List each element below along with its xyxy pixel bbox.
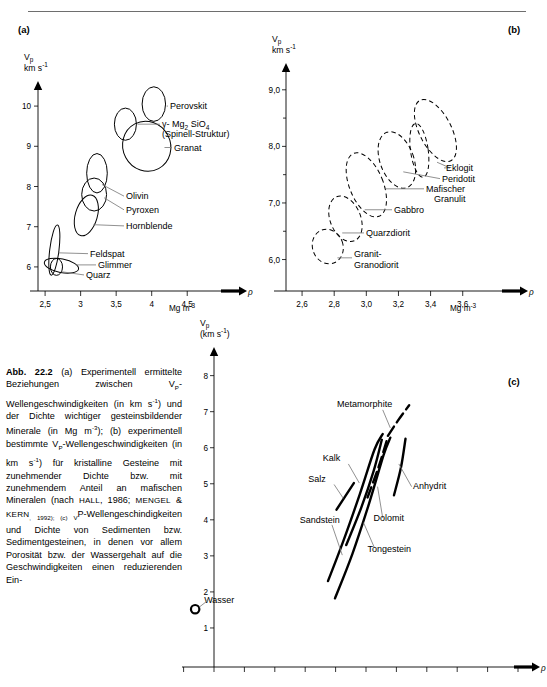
envelope-label-eklogit: Eklogit [446, 163, 474, 173]
x-tick-label-a: 3,5 [110, 300, 122, 309]
envelope-label-granit-: Granit- [354, 249, 382, 259]
y-tick-label-c: 7 [203, 408, 208, 417]
curve-label-dolomit: Dolomit [374, 513, 405, 523]
envelope-label-granodiorit: Granodiorit [354, 260, 399, 270]
y-tick-label-b: 7,0 [269, 199, 281, 208]
y-tick-label-c: 6 [203, 444, 208, 453]
curve-label-salz: Salz [308, 474, 326, 484]
caption-run: , 1986; [100, 495, 136, 505]
chart-panel-b: Vpkm s-16,07,08,09,02,62,83,03,23,43,6ρM… [264, 30, 544, 330]
x-axis-a-unit: Mg m-3 [169, 302, 196, 313]
curve-label-anhydrit: Anhydrit [413, 481, 447, 491]
envelope-label-hornblende: Hornblende [126, 221, 173, 231]
leader-sandstein [332, 525, 342, 555]
y-tick-label-c: 5 [203, 480, 208, 489]
curve-dolomit [368, 439, 388, 498]
curve-salz [337, 483, 354, 510]
curve-label-metamorphite: Metamorphite [337, 399, 392, 409]
x-tick-label-b: 3,0 [361, 300, 373, 309]
y-tick-label-c: 4 [203, 516, 208, 525]
figure-caption: Abb. 22.2 (a) Experimentell ermittelte B… [6, 366, 182, 586]
x-axis-a-arrow-head [239, 286, 247, 295]
y-axis-label-a-unit: km s-1 [24, 61, 48, 72]
caption-label: Abb. 22.2 [6, 367, 61, 377]
curve-metamorphite [388, 405, 409, 436]
y-tick-label-c: 8 [203, 372, 208, 381]
envelope-label-perovskit: Perovskit [170, 101, 208, 111]
envelope-peridotit [407, 122, 432, 178]
caption-run: KERN [6, 510, 29, 519]
leader-kalk [348, 464, 359, 483]
y-tick-label-b: 8,0 [269, 142, 281, 151]
envelope-perovskit [142, 87, 165, 122]
x-axis-b-unit: Mg m-3 [450, 302, 477, 313]
chart-panel-a: Vpkm s-16789102,533,544,5ρMg m-3Perovski… [0, 30, 268, 330]
x-axis-b-symbol: ρ [528, 288, 534, 297]
envelope-label-(spinell-struktur): (Spinell-Struktur) [162, 129, 230, 139]
leader-salz [334, 484, 343, 498]
y-tick-label-a: 9 [26, 142, 31, 151]
x-axis-c-arrow-head [532, 662, 540, 671]
envelope-label-mafischer: Mafischer [426, 184, 465, 194]
envelope-label-pyroxen: Pyroxen [126, 205, 159, 215]
marker-wasser [191, 605, 199, 613]
envelope-label-granat: Granat [174, 143, 202, 153]
curve-kalk [346, 440, 382, 545]
envelope-label-gabbro: Gabbro [394, 205, 424, 215]
y-tick-label-a: 7 [26, 223, 31, 232]
envelope-label-peridotit: Peridotit [442, 174, 476, 184]
caption-run: & [171, 495, 182, 505]
x-tick-label-a: 3 [78, 300, 83, 309]
envelope-pyroxen [82, 178, 107, 211]
envelope-gabbro [338, 147, 395, 223]
x-tick-label-b: 2,8 [329, 300, 341, 309]
y-tick-label-b: 6,0 [269, 256, 281, 265]
header-rule [28, 11, 526, 12]
envelope-eklogit [406, 93, 465, 168]
envelope-granit-granodiorit [307, 225, 348, 268]
y-tick-label-c: 3 [203, 552, 208, 561]
envelope-quarzdiorit [322, 191, 368, 247]
envelope-olivin [87, 154, 108, 193]
leader-Olivin [102, 184, 124, 196]
leader-Pyroxen [104, 198, 124, 210]
leader-metamorphite [383, 410, 391, 428]
envelope-label-quarzdiorit: Quarzdiorit [366, 228, 411, 238]
caption-run: HALL [79, 496, 100, 505]
x-axis-b-arrow-head [520, 286, 528, 295]
envelope-label-glimmer: Glimmer [98, 260, 132, 270]
x-tick-label-b: 3,2 [393, 300, 405, 309]
y-axis-arrow-b [282, 63, 290, 72]
x-axis-c-symbol: ρ [540, 664, 546, 673]
curve-anhydrit [394, 439, 406, 496]
leader-Feldspat [59, 253, 88, 254]
y-axis-arrow-a [34, 81, 42, 90]
envelope-label-feldspat: Feldspat [90, 249, 125, 259]
leader-Peridotit [403, 172, 440, 179]
x-tick-label-b: 2,6 [296, 300, 308, 309]
caption-run: MENGEL [135, 496, 170, 505]
y-tick-label-c: 1 [203, 624, 208, 633]
envelope-label-granulit: Granulit [434, 194, 466, 204]
point-label-wasser: Wasser [204, 595, 234, 605]
x-tick-label-a: 2,5 [39, 300, 51, 309]
envelope-quarz [50, 258, 62, 275]
envelope-mafischer-granulit [371, 127, 423, 194]
y-axis-label-c-unit: (km s-1) [200, 327, 230, 338]
y-axis-arrow-c [210, 347, 218, 356]
curve-label-kalk: Kalk [323, 453, 341, 463]
y-tick-label-a: 10 [22, 102, 32, 111]
x-tick-label-a: 4 [149, 300, 154, 309]
curve-label-sandstein: Sandstein [300, 515, 340, 525]
envelope-hornblende [70, 192, 103, 238]
envelope-label-quarz: Quarz [86, 270, 111, 280]
curve-label-tongestein: Tongestein [368, 544, 412, 554]
y-tick-label-a: 8 [26, 183, 31, 192]
chart-panel-c: Vp(km s-1)12345678ρWasserMetamorphiteKal… [188, 334, 547, 686]
envelope-γ-mg2sio4 [114, 108, 136, 140]
y-axis-label-b-unit: km s-1 [272, 43, 296, 54]
y-tick-label-a: 6 [26, 263, 31, 272]
envelope-label-olivin: Olivin [126, 191, 149, 201]
x-axis-a-symbol: ρ [247, 288, 253, 297]
leader-Hornblende [93, 225, 124, 226]
